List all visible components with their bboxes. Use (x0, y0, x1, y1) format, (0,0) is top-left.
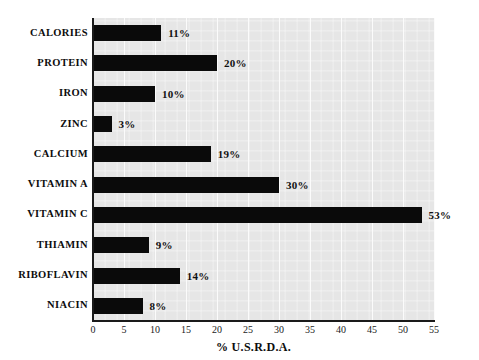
x-tick-label: 5 (122, 324, 127, 335)
bar-row: 10% (93, 79, 434, 109)
bar (93, 177, 279, 193)
x-tick-label: 20 (212, 324, 222, 335)
category-label: RIBOFLAVIN (2, 269, 88, 280)
bar-row: 3% (93, 109, 434, 139)
bar (93, 55, 217, 71)
bar (93, 86, 155, 102)
bar-row: 11% (93, 18, 434, 48)
bar (93, 298, 143, 314)
category-label: THIAMIN (2, 239, 88, 250)
bar (93, 146, 211, 162)
x-tick-label: 55 (429, 324, 439, 335)
category-label: VITAMIN C (2, 208, 88, 219)
bar (93, 25, 161, 41)
x-tick-label: 25 (243, 324, 253, 335)
x-tick-label: 35 (305, 324, 315, 335)
category-label: CALORIES (2, 27, 88, 38)
category-label: IRON (2, 87, 88, 98)
bar-value-label: 14% (187, 270, 210, 282)
y-axis-line (92, 18, 94, 321)
bar-value-label: 8% (150, 300, 167, 312)
x-tick-label: 45 (367, 324, 377, 335)
bar-row: 19% (93, 139, 434, 169)
bar-row: 9% (93, 230, 434, 260)
x-tick-label: 30 (274, 324, 284, 335)
bar-value-label: 9% (156, 239, 173, 251)
bar-row: 14% (93, 260, 434, 290)
plot-area: 11%20%10%3%19%30%53%9%14%8% (93, 18, 434, 321)
bar-value-label: 30% (286, 179, 309, 191)
x-axis-line (92, 320, 435, 322)
bar-row: 20% (93, 48, 434, 78)
x-axis-title: % U.S.R.D.A. (0, 340, 479, 355)
x-tick-label: 40 (336, 324, 346, 335)
bar-value-label: 20% (224, 57, 247, 69)
bar (93, 207, 422, 223)
bar-chart: 11%20%10%3%19%30%53%9%14%8% CALORIESPROT… (0, 0, 479, 360)
bar-value-label: 19% (218, 148, 241, 160)
category-label: ZINC (2, 118, 88, 129)
bar-value-label: 53% (429, 209, 452, 221)
x-tick-label: 10 (150, 324, 160, 335)
bar-row: 8% (93, 291, 434, 321)
bar (93, 237, 149, 253)
category-axis-labels: CALORIESPROTEINIRONZINCCALCIUMVITAMIN AV… (0, 18, 88, 321)
category-label: VITAMIN A (2, 178, 88, 189)
gridline (434, 18, 435, 321)
bar (93, 116, 112, 132)
bar-value-label: 11% (168, 27, 190, 39)
bar-row: 30% (93, 170, 434, 200)
bar-value-label: 3% (119, 118, 136, 130)
category-label: CALCIUM (2, 148, 88, 159)
x-axis-tick-labels: 0510152025303540455055 (93, 324, 434, 340)
x-tick-label: 50 (398, 324, 408, 335)
bar-row: 53% (93, 200, 434, 230)
x-axis-title-text: % U.S.R.D.A. (216, 340, 291, 354)
x-tick-label: 0 (91, 324, 96, 335)
x-tick-label: 15 (181, 324, 191, 335)
bar-value-label: 10% (162, 88, 185, 100)
category-label: PROTEIN (2, 57, 88, 68)
category-label: NIACIN (2, 299, 88, 310)
bar (93, 268, 180, 284)
